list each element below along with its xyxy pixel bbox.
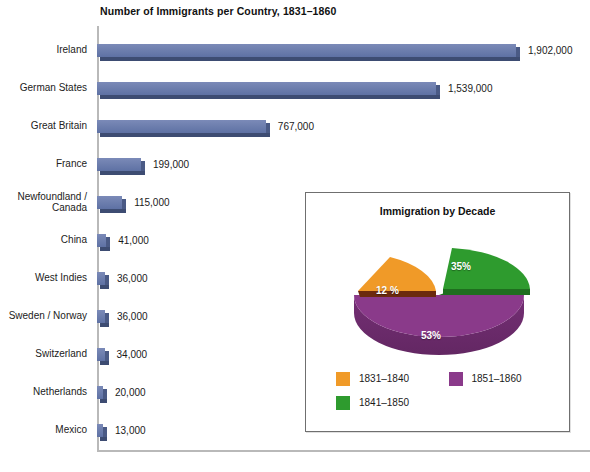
page-title: Number of Immigrants per Country, 1831–1… (100, 5, 336, 17)
pie-svg (306, 223, 571, 363)
bar (97, 310, 105, 323)
bar-track: 199,000 (92, 145, 590, 183)
legend-label: 1831–1840 (359, 373, 409, 384)
bar-category-label: Switzerland (0, 348, 92, 360)
bar (97, 196, 122, 209)
legend-row: 1831–1840 1851–1860 (336, 371, 561, 386)
bar-value-label: 36,000 (117, 273, 148, 284)
pie-label-1841-1850: 35% (451, 261, 471, 272)
legend-item-1851-1860: 1851–1860 (449, 372, 562, 386)
bar-category-label: Mexico (0, 424, 92, 436)
bar-value-label: 13,000 (115, 425, 146, 436)
pie-graphic: 35% 12 % 53% (306, 223, 571, 363)
pie-label-1831-1840: 12 % (376, 285, 399, 296)
legend-swatch-purple-icon (449, 372, 463, 386)
bar-value-label: 34,000 (117, 349, 148, 360)
bar-track: 1,902,000 (92, 31, 590, 69)
bar (97, 386, 103, 399)
bar (97, 120, 266, 133)
bar-category-label: Newfoundland / Canada (0, 191, 92, 214)
bar (97, 44, 516, 57)
bar-category-label: West Indies (0, 272, 92, 284)
legend-item-1831-1840: 1831–1840 (336, 372, 449, 386)
legend-item-1841-1850: 1841–1850 (336, 396, 449, 410)
bar-track: 767,000 (92, 107, 590, 145)
pie-chart-title: Immigration by Decade (306, 205, 569, 217)
bar (97, 158, 141, 171)
bar-category-label: China (0, 234, 92, 246)
legend-swatch-orange-icon (336, 372, 350, 386)
pie-label-1851-1860: 53% (421, 330, 441, 341)
pie-chart-panel: Immigration by Decade (305, 192, 570, 432)
bar-category-label: Sweden / Norway (0, 310, 92, 322)
bar-value-label: 36,000 (117, 311, 148, 322)
bar-value-label: 1,539,000 (448, 83, 493, 94)
pie-slice-green-edge (443, 289, 530, 295)
legend-row: 1841–1850 (336, 395, 561, 410)
bar-category-label: German States (0, 82, 92, 94)
bar-category-label: Great Britain (0, 120, 92, 132)
bar-category-label: Netherlands (0, 386, 92, 398)
bar-category-label: France (0, 158, 92, 170)
bar-value-label: 20,000 (115, 387, 146, 398)
bar-row: Great Britain767,000 (0, 107, 590, 145)
legend-label: 1841–1850 (359, 397, 409, 408)
bar (97, 348, 105, 361)
x-axis-baseline (97, 450, 590, 452)
bar-track: 1,539,000 (92, 69, 590, 107)
bar-value-label: 115,000 (134, 197, 169, 208)
bar (97, 82, 436, 95)
bar-category-label: Ireland (0, 44, 92, 56)
legend-label: 1851–1860 (472, 373, 522, 384)
bar-row: German States1,539,000 (0, 69, 590, 107)
bar-row: France199,000 (0, 145, 590, 183)
bar (97, 424, 103, 437)
bar-row: Ireland1,902,000 (0, 31, 590, 69)
pie-legend: 1831–1840 1851–1860 1841–1850 (336, 371, 561, 419)
bar-value-label: 767,000 (278, 121, 314, 132)
bar-value-label: 1,902,000 (528, 45, 573, 56)
bar (97, 272, 105, 285)
bar (97, 234, 106, 247)
bar-value-label: 199,000 (153, 159, 189, 170)
legend-swatch-green-icon (336, 396, 350, 410)
chart-canvas: Number of Immigrants per Country, 1831–1… (0, 0, 590, 472)
bar-value-label: 41,000 (118, 235, 149, 246)
